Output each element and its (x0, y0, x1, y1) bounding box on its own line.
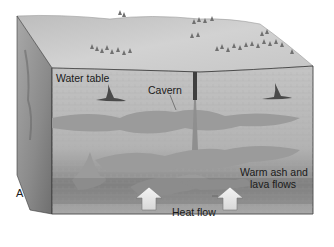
vertical-fracture (193, 72, 197, 100)
heat-flow-label: Heat flow (172, 207, 216, 218)
warm-ash-label-line2: lava flows (250, 179, 296, 190)
cavern-label: Cavern (148, 85, 182, 96)
panel-label: A (16, 187, 23, 199)
warm-ash-label-line1: Warm ash and (240, 167, 308, 178)
land-surface (17, 15, 313, 72)
water-table-label: Water table (56, 73, 109, 84)
geothermal-block-diagram: Water table Cavern Warm ash and lava flo… (0, 0, 334, 247)
block-diagram-illustration (0, 0, 334, 247)
